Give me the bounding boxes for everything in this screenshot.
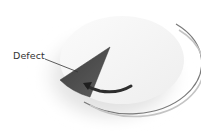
- diagram-canvas: Defect: [0, 0, 201, 132]
- defect-label: Defect: [13, 50, 45, 61]
- disc-diagram: [0, 0, 201, 132]
